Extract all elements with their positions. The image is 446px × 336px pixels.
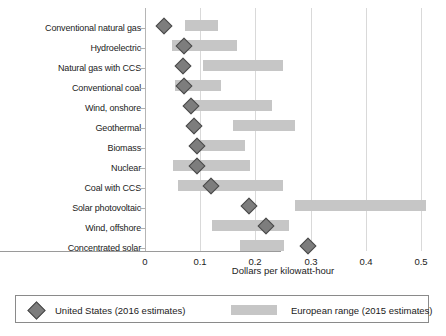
category-label-wind-offshore: Wind, offshore: [3, 223, 141, 233]
category-label-coal-with-ccs: Coal with CCS: [3, 183, 141, 193]
range-bar: [295, 200, 426, 211]
range-bar: [212, 220, 289, 231]
legend-label-european-range: European range (2015 estimates): [291, 305, 433, 316]
category-label-natural-gas-with-ccs: Natural gas with CCS: [3, 63, 141, 73]
plot-area: Conventional natural gas Hydroelectric N…: [0, 8, 446, 258]
gridline-0.5: [421, 8, 422, 251]
range-bar: [240, 240, 284, 251]
range-bar: [233, 120, 295, 131]
x-axis-title: Dollars per kilowatt-hour: [145, 265, 421, 276]
category-label-conventional-natural-gas: Conventional natural gas: [3, 23, 141, 33]
category-axis-labels: Conventional natural gas Hydroelectric N…: [0, 8, 141, 258]
range-bar-swatch-icon: [231, 305, 277, 315]
category-label-nuclear: Nuclear: [3, 163, 141, 173]
category-label-geothermal: Geothermal: [3, 123, 141, 133]
diamond-marker-icon: [27, 301, 45, 319]
data-canvas: 0 0.1 0.2 0.3 0.4 0.5: [145, 8, 421, 258]
category-label-conventional-coal: Conventional coal: [3, 83, 141, 93]
chart-figure: Conventional natural gas Hydroelectric N…: [0, 0, 446, 336]
chart-legend: United States (2016 estimates) European …: [15, 295, 429, 323]
range-bar: [178, 180, 283, 191]
legend-entry-united-states: United States (2016 estimates): [30, 296, 185, 324]
gridline-0.3: [311, 8, 312, 251]
category-label-solar-photovoltaic: Solar photovoltaic: [3, 203, 141, 213]
us-marker: [300, 238, 317, 255]
range-bar: [203, 60, 283, 71]
us-marker: [156, 18, 173, 35]
category-label-wind-onshore: Wind, onshore: [3, 103, 141, 113]
legend-label-united-states: United States (2016 estimates): [55, 305, 185, 316]
legend-entry-european-range: European range (2015 estimates): [231, 296, 433, 324]
gridline-0.4: [366, 8, 367, 251]
range-bar: [188, 100, 272, 111]
range-bar: [185, 20, 218, 31]
category-label-biomass: Biomass: [3, 143, 141, 153]
us-marker: [175, 58, 192, 75]
category-label-hydroelectric: Hydroelectric: [3, 43, 141, 53]
range-bar: [173, 160, 250, 171]
gridline-0: [145, 8, 146, 251]
